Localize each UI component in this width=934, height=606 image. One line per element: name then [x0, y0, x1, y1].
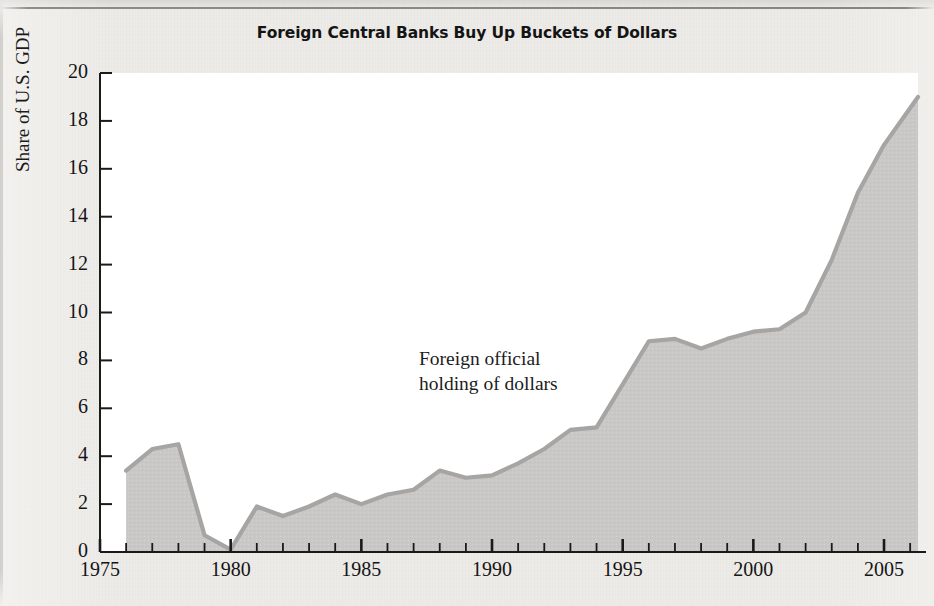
y-axis-tick-label: 4: [44, 443, 88, 466]
x-axis-tick-label: 2000: [708, 558, 798, 581]
area-chart: 02468101214161820 1975198019851990199520…: [0, 0, 934, 606]
y-axis-tick-label: 6: [44, 395, 88, 418]
x-axis-tick-label: 1990: [447, 558, 537, 581]
series-annotation-label: Foreign official holding of dollars: [419, 346, 558, 396]
y-axis-tick-label: 16: [44, 156, 88, 179]
y-axis-tick-label: 2: [44, 491, 88, 514]
chart-canvas: [0, 0, 934, 606]
x-axis-tick-label: 1995: [578, 558, 668, 581]
x-axis-tick-label: 2005: [839, 558, 929, 581]
x-axis-tick-label: 1985: [316, 558, 406, 581]
y-axis-tick-label: 8: [44, 347, 88, 370]
y-axis-tick-label: 18: [44, 108, 88, 131]
y-axis-tick-label: 14: [44, 204, 88, 227]
x-axis-tick-label: 1980: [186, 558, 276, 581]
y-axis-tick-label: 10: [44, 300, 88, 323]
x-axis-tick-label: 1975: [55, 558, 145, 581]
y-axis-tick-label: 12: [44, 252, 88, 275]
y-axis-tick-label: 20: [44, 60, 88, 83]
